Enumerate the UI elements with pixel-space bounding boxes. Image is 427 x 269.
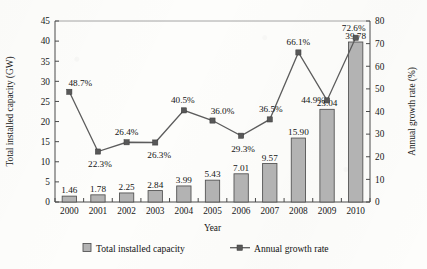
svg-text:45: 45	[41, 16, 51, 26]
bar-2009	[320, 109, 334, 202]
bar-2001	[91, 195, 105, 202]
legend-swatch-total-installed-capacity	[83, 244, 91, 252]
svg-text:70: 70	[375, 39, 385, 49]
right-axis: 01020304050607080	[366, 16, 385, 207]
growth-label-2002: 26.4%	[115, 127, 139, 137]
marker-2006	[239, 133, 244, 138]
svg-text:2005: 2005	[203, 206, 222, 216]
marker-2008	[296, 50, 301, 55]
growth-label-2003: 26.3%	[147, 150, 171, 160]
svg-text:2001: 2001	[89, 206, 108, 216]
bar-2007	[263, 164, 277, 202]
svg-text:15: 15	[41, 137, 51, 147]
svg-text:20: 20	[41, 117, 51, 127]
growth-label-2010: 72.6%	[342, 23, 366, 33]
x-axis-title: Year	[204, 223, 222, 233]
marker-2010	[353, 35, 358, 40]
svg-text:0: 0	[375, 197, 380, 207]
bar-label-2005: 5.43	[204, 169, 220, 179]
svg-text:20: 20	[375, 152, 385, 162]
growth-label-2006: 29.3%	[231, 144, 255, 154]
marker-2005	[210, 118, 215, 123]
bar-2002	[119, 193, 133, 202]
svg-text:2003: 2003	[146, 206, 165, 216]
svg-text:2000: 2000	[60, 206, 79, 216]
bar-label-2007: 9.57	[262, 153, 278, 163]
marker-2001	[95, 149, 100, 154]
marker-2009	[324, 98, 329, 103]
chart-svg: 051015202530354045 01020304050607080 200…	[0, 0, 427, 269]
svg-text:40: 40	[41, 36, 51, 46]
svg-text:2009: 2009	[318, 206, 337, 216]
svg-text:40: 40	[375, 107, 385, 117]
legend-label-annual-growth-rate: Annual growth rate	[254, 243, 329, 254]
svg-text:10: 10	[41, 157, 51, 167]
svg-text:50: 50	[375, 84, 385, 94]
svg-text:2006: 2006	[232, 206, 251, 216]
bar-2003	[148, 191, 162, 202]
bar-label-2008: 15.90	[288, 127, 309, 137]
svg-text:2002: 2002	[117, 206, 136, 216]
growth-label-2009: 44.9%	[301, 95, 325, 105]
bar-2005	[205, 180, 219, 202]
bar-2008	[291, 138, 305, 202]
svg-text:30: 30	[41, 77, 51, 87]
svg-text:2008: 2008	[289, 206, 308, 216]
marker-2000	[67, 89, 72, 94]
marker-2004	[181, 108, 186, 113]
svg-text:0: 0	[45, 197, 50, 207]
svg-text:60: 60	[375, 62, 385, 72]
bar-2004	[177, 186, 191, 202]
bar-label-2006: 7.01	[233, 163, 249, 173]
svg-text:80: 80	[375, 16, 385, 26]
bar-label-2002: 2.25	[119, 182, 135, 192]
chart-legend: Total installed capacityAnnual growth ra…	[83, 243, 329, 254]
svg-text:35: 35	[41, 57, 51, 67]
y2-axis-title: Annual growth rate (%)	[407, 67, 418, 156]
bar-label-2001: 1.78	[90, 184, 106, 194]
bar-label-2000: 1.46	[61, 185, 77, 195]
growth-label-2008: 66.1%	[287, 37, 311, 47]
growth-label-2005: 36.0%	[211, 106, 235, 116]
svg-text:2004: 2004	[175, 206, 194, 216]
left-axis: 051015202530354045	[41, 16, 59, 207]
growth-label-2001: 22.3%	[88, 159, 112, 169]
svg-text:10: 10	[375, 175, 385, 185]
svg-text:2010: 2010	[346, 206, 365, 216]
legend-label-total-installed-capacity: Total installed capacity	[96, 243, 185, 254]
growth-label-2004: 40.5%	[171, 95, 195, 105]
bar-2010	[349, 42, 363, 202]
growth-label-2000: 48.7%	[68, 78, 92, 88]
growth-label-2007: 36.5%	[259, 104, 283, 114]
y-axis-title: Total installed capacity (GW)	[5, 56, 16, 166]
marker-2002	[124, 140, 129, 145]
bar-2006	[234, 174, 248, 202]
chart-figure: 051015202530354045 01020304050607080 200…	[0, 0, 427, 269]
svg-text:25: 25	[41, 97, 51, 107]
legend-marker-annual-growth-rate	[237, 245, 242, 250]
svg-text:5: 5	[45, 177, 50, 187]
bar-label-2003: 2.84	[147, 180, 163, 190]
marker-2003	[153, 140, 158, 145]
bar-label-2004: 3.99	[176, 175, 192, 185]
bar-2000	[62, 196, 76, 202]
marker-2007	[267, 117, 272, 122]
svg-text:30: 30	[375, 129, 385, 139]
svg-text:2007: 2007	[260, 206, 279, 216]
